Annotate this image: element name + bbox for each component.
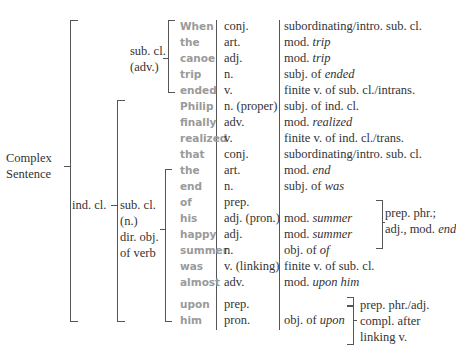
- word: Philip: [180, 98, 213, 114]
- function-em: trip: [312, 35, 330, 49]
- table-row: ofprep.: [0, 194, 441, 210]
- part-of-speech: n. (proper): [224, 98, 277, 114]
- part-of-speech: conj.: [224, 18, 249, 34]
- table-row: tripn.subj. of ended: [0, 66, 441, 82]
- function-text: subordinating/intro. sub. cl.: [284, 147, 422, 161]
- label-line: compl. after: [360, 313, 429, 329]
- part-of-speech: v.: [224, 130, 233, 146]
- function-text: finite v. of sub. cl.: [284, 259, 375, 273]
- function: mod. summer: [284, 210, 352, 226]
- label-line: prep. phr./adj.: [360, 297, 429, 313]
- label-line: adj., mod. end: [385, 221, 456, 237]
- part-of-speech: v. (linking): [224, 258, 279, 274]
- table-row: almostadv.mod. upon him: [0, 274, 441, 290]
- function-text: obj. of: [284, 313, 320, 327]
- word: summer: [180, 242, 228, 258]
- prep-phrase-bracket-1: [376, 200, 383, 249]
- function-em: upon him: [312, 275, 359, 289]
- table-row: thatconj.subordinating/intro. sub. cl.: [0, 146, 441, 162]
- part-of-speech: conj.: [224, 146, 249, 162]
- part-of-speech: adj.: [224, 226, 242, 242]
- function: subj. of was: [284, 178, 344, 194]
- part-of-speech: v.: [224, 82, 233, 98]
- table-row: hisadj. (pron.)mod. summer: [0, 210, 441, 226]
- function-em: of: [320, 243, 330, 257]
- function-em: ended: [325, 67, 355, 81]
- table-row: summern.obj. of of: [0, 242, 441, 258]
- word: realized: [180, 130, 227, 146]
- function-text: obj. of: [284, 243, 320, 257]
- function-em: summer: [312, 211, 352, 225]
- word: him: [180, 312, 202, 328]
- word: of: [180, 194, 192, 210]
- part-of-speech: adj. (pron.): [224, 210, 280, 226]
- table-row: endedv.finite v. of sub. cl./intrans.: [0, 82, 441, 98]
- function-em: was: [325, 179, 344, 193]
- word: upon: [180, 296, 210, 312]
- function: mod. realized: [284, 114, 352, 130]
- function: obj. of upon: [284, 312, 345, 328]
- word: happy: [180, 226, 216, 242]
- part-of-speech: adj.: [224, 50, 242, 66]
- function-text: mod.: [284, 275, 312, 289]
- word: end: [180, 178, 202, 194]
- part-of-speech: n.: [224, 178, 233, 194]
- function: subordinating/intro. sub. cl.: [284, 146, 422, 162]
- table-row: Whenconj.subordinating/intro. sub. cl.: [0, 18, 441, 34]
- label-line: linking v.: [360, 329, 429, 345]
- part-of-speech: prep.: [224, 296, 249, 312]
- table-row: finallyadv.mod. realized: [0, 114, 441, 130]
- function-em: trip: [312, 51, 330, 65]
- function: mod. summer: [284, 226, 352, 242]
- table-row: canoeadj.mod. trip: [0, 50, 441, 66]
- part-of-speech: art.: [224, 162, 240, 178]
- function-text: mod.: [284, 227, 312, 241]
- function-text: finite v. of ind. cl./trans.: [284, 131, 404, 145]
- part-of-speech: adv.: [224, 274, 244, 290]
- function: mod. trip: [284, 34, 331, 50]
- table-row: endn.subj. of was: [0, 178, 441, 194]
- function: finite v. of sub. cl.: [284, 258, 375, 274]
- function: subordinating/intro. sub. cl.: [284, 18, 422, 34]
- part-of-speech: art.: [224, 34, 240, 50]
- word: the: [180, 34, 200, 50]
- prep-phrase-bracket-2: [347, 297, 354, 345]
- function-em: end: [312, 163, 330, 177]
- label-text: adj., mod.: [385, 222, 438, 236]
- function-text: subj. of: [284, 179, 325, 193]
- word: ended: [180, 82, 217, 98]
- label-line: prep. phr.;: [385, 205, 456, 221]
- table-row: theart.mod. end: [0, 162, 441, 178]
- function-em: summer: [312, 227, 352, 241]
- function: subj. of ind. cl.: [284, 98, 359, 114]
- table-row: wasv. (linking)finite v. of sub. cl.: [0, 258, 441, 274]
- function: mod. upon him: [284, 274, 359, 290]
- table-row: theart.mod. trip: [0, 34, 441, 50]
- word: his: [180, 210, 197, 226]
- part-of-speech: adv.: [224, 114, 244, 130]
- word: the: [180, 162, 200, 178]
- word: canoe: [180, 50, 215, 66]
- function-text: subj. of ind. cl.: [284, 99, 359, 113]
- function-text: mod.: [284, 35, 312, 49]
- prep-phrase-label-2: prep. phr./adj. compl. after linking v.: [360, 297, 429, 345]
- label-em: end: [438, 222, 456, 236]
- table-row: realizedv.finite v. of ind. cl./trans.: [0, 130, 441, 146]
- function-em: upon: [320, 313, 345, 327]
- prep-phrase-tick-2: [353, 320, 357, 321]
- part-of-speech: n.: [224, 66, 233, 82]
- function: finite v. of ind. cl./trans.: [284, 130, 404, 146]
- function: finite v. of sub. cl./intrans.: [284, 82, 415, 98]
- prep-phrase-label-1: prep. phr.; adj., mod. end: [385, 205, 456, 237]
- part-of-speech: prep.: [224, 194, 249, 210]
- word: almost: [180, 274, 220, 290]
- word: was: [180, 258, 203, 274]
- word: When: [180, 18, 214, 34]
- part-of-speech: pron.: [224, 312, 250, 328]
- function: mod. end: [284, 162, 331, 178]
- function-text: finite v. of sub. cl./intrans.: [284, 83, 415, 97]
- function-em: realized: [312, 115, 352, 129]
- word: finally: [180, 114, 216, 130]
- function-text: subordinating/intro. sub. cl.: [284, 19, 422, 33]
- function-text: mod.: [284, 163, 312, 177]
